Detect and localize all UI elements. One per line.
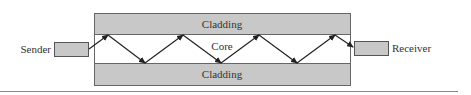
core-label: Core: [211, 40, 233, 52]
top-cladding-label: Cladding: [202, 18, 243, 30]
sender: Sender: [20, 43, 88, 57]
fiber-optic-diagram: Cladding Core Cladding Sender Receiver: [0, 0, 471, 95]
receiver-box: [355, 42, 389, 56]
sender-label: Sender: [20, 43, 51, 55]
sender-box: [55, 43, 89, 57]
fiber: Cladding Core Cladding: [95, 14, 351, 86]
receiver: Receiver: [355, 42, 432, 56]
receiver-label: Receiver: [392, 42, 431, 54]
bottom-cladding-label: Cladding: [202, 68, 243, 80]
